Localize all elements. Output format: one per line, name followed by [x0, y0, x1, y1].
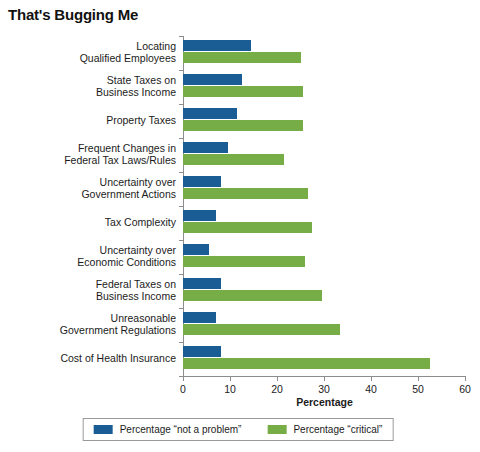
y-axis-category-label: Uncertainty overGovernment Actions	[0, 176, 176, 201]
x-tick	[230, 376, 231, 381]
y-axis-category-line: State Taxes on	[0, 74, 176, 87]
bar-critical	[183, 154, 284, 165]
legend-label-not-a-problem: Percentage “not a problem”	[120, 424, 242, 435]
x-tick-label: 60	[450, 383, 480, 395]
bar-critical	[183, 290, 322, 301]
y-axis-category-label: Uncertainty overEconomic Conditions	[0, 244, 176, 269]
y-axis-category-line: Uncertainty over	[0, 176, 176, 189]
bar-critical	[183, 256, 305, 267]
y-tick	[179, 274, 184, 275]
y-tick	[179, 206, 184, 207]
y-axis-category-label: Tax Complexity	[0, 216, 176, 229]
bar-not-a-problem	[183, 108, 237, 119]
x-tick-label: 0	[168, 383, 198, 395]
bar-not-a-problem	[183, 244, 209, 255]
y-axis-category-label: Property Taxes	[0, 114, 176, 127]
y-tick	[179, 172, 184, 173]
y-tick	[179, 70, 184, 71]
x-tick-label: 50	[403, 383, 433, 395]
y-axis-category-line: Business Income	[0, 290, 176, 303]
x-tick	[465, 376, 466, 381]
y-axis-category-label: Frequent Changes inFederal Tax Laws/Rule…	[0, 142, 176, 167]
bar-critical	[183, 188, 308, 199]
bar-not-a-problem	[183, 176, 221, 187]
x-tick-label: 40	[356, 383, 386, 395]
x-tick	[371, 376, 372, 381]
y-tick	[179, 342, 184, 343]
y-axis-category-line: Locating	[0, 40, 176, 53]
bar-not-a-problem	[183, 74, 242, 85]
y-axis-category-line: Unreasonable	[0, 312, 176, 325]
y-axis-category-line: Cost of Health Insurance	[0, 352, 176, 365]
x-tick-label: 20	[262, 383, 292, 395]
legend-label-critical: Percentage “critical”	[293, 424, 382, 435]
y-axis-category-line: Federal Taxes on	[0, 278, 176, 291]
bar-critical	[183, 222, 312, 233]
page-title: That's Bugging Me	[8, 6, 138, 23]
legend-swatch-not-a-problem	[94, 425, 113, 434]
x-axis-title: Percentage	[183, 396, 466, 408]
bar-not-a-problem	[183, 210, 216, 221]
y-axis-category-line: Uncertainty over	[0, 244, 176, 257]
y-axis-category-line: Business Income	[0, 86, 176, 99]
y-axis-category-line: Property Taxes	[0, 114, 176, 127]
y-axis-category-label: LocatingQualified Employees	[0, 40, 176, 65]
x-tick-label: 30	[309, 383, 339, 395]
y-axis-category-line: Government Regulations	[0, 324, 176, 337]
y-axis-category-label: Federal Taxes onBusiness Income	[0, 278, 176, 303]
legend-swatch-critical	[267, 425, 286, 434]
x-tick-label: 10	[215, 383, 245, 395]
bar-not-a-problem	[183, 312, 216, 323]
y-axis-category-line: Tax Complexity	[0, 216, 176, 229]
y-axis-category-label: UnreasonableGovernment Regulations	[0, 312, 176, 337]
y-axis-category-line: Economic Conditions	[0, 256, 176, 269]
y-tick	[179, 104, 184, 105]
bar-not-a-problem	[183, 40, 251, 51]
y-axis-category-line: Qualified Employees	[0, 52, 176, 65]
bar-not-a-problem	[183, 142, 228, 153]
legend-item-not-a-problem[interactable]: Percentage “not a problem”	[94, 424, 242, 435]
y-tick	[179, 240, 184, 241]
bar-not-a-problem	[183, 278, 221, 289]
y-axis-category-label: Cost of Health Insurance	[0, 352, 176, 365]
x-tick	[324, 376, 325, 381]
legend-item-critical[interactable]: Percentage “critical”	[267, 424, 382, 435]
x-tick	[277, 376, 278, 381]
y-tick	[179, 308, 184, 309]
legend: Percentage “not a problem” Percentage “c…	[83, 418, 394, 441]
bar-critical	[183, 52, 301, 63]
y-axis-category-line: Frequent Changes in	[0, 142, 176, 155]
bar-critical	[183, 324, 340, 335]
y-tick	[179, 36, 184, 37]
y-axis-category-line: Government Actions	[0, 188, 176, 201]
bar-not-a-problem	[183, 346, 221, 357]
y-axis-category-label: State Taxes onBusiness Income	[0, 74, 176, 99]
x-tick	[183, 376, 184, 381]
bar-critical	[183, 358, 430, 369]
y-tick	[179, 138, 184, 139]
x-tick	[418, 376, 419, 381]
bar-critical	[183, 86, 303, 97]
bar-critical	[183, 120, 303, 131]
y-axis-category-line: Federal Tax Laws/Rules	[0, 154, 176, 167]
